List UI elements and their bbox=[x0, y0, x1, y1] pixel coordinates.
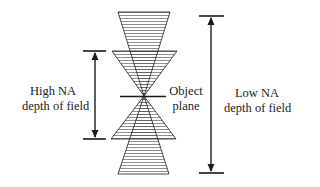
object-plane-label: Object plane bbox=[166, 84, 206, 114]
arrowhead-down-icon bbox=[92, 130, 99, 138]
high-na-label-line2: depth of field bbox=[22, 99, 84, 114]
arrowhead-up-icon bbox=[92, 52, 99, 60]
high-na-label-line1: High NA bbox=[22, 84, 84, 99]
low-na-label-line1: Low NA bbox=[224, 86, 290, 101]
high-na-label: High NA depth of field bbox=[22, 84, 84, 114]
low-na-label: Low NA depth of field bbox=[224, 86, 290, 116]
object-plane-label-line1: Object bbox=[166, 84, 206, 99]
arrowhead-down-icon bbox=[208, 164, 215, 172]
arrowhead-up-icon bbox=[208, 17, 215, 25]
high-na-dof-arrow bbox=[83, 51, 106, 139]
low-na-label-line2: depth of field bbox=[224, 101, 290, 116]
object-plane-label-line2: plane bbox=[166, 99, 206, 114]
